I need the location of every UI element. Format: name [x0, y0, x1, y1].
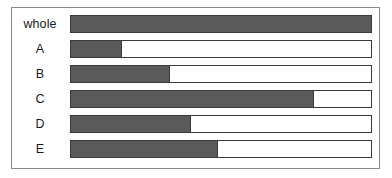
bar-fill-a	[71, 41, 122, 57]
bar-fill-b	[71, 66, 170, 82]
bar-label-c: C	[14, 89, 66, 109]
bar-row-d: D	[0, 114, 392, 134]
bar-chart-figure: whole A B C D	[0, 0, 392, 178]
bar-label-whole: whole	[14, 14, 66, 34]
bar-track-e	[70, 140, 372, 158]
bar-row-b: B	[0, 64, 392, 84]
bar-track-b	[70, 65, 372, 83]
bar-label-b: B	[14, 64, 66, 84]
bar-row-a: A	[0, 39, 392, 59]
bar-row-whole: whole	[0, 14, 392, 34]
bar-fill-c	[71, 91, 314, 107]
bar-fill-whole	[71, 16, 371, 32]
bar-rows: whole A B C D	[0, 0, 392, 178]
bar-fill-d	[71, 116, 191, 132]
bar-track-c	[70, 90, 372, 108]
bar-label-d: D	[14, 114, 66, 134]
bar-row-c: C	[0, 89, 392, 109]
bar-fill-e	[71, 141, 218, 157]
bar-track-a	[70, 40, 372, 58]
bar-row-e: E	[0, 139, 392, 159]
bar-label-e: E	[14, 139, 66, 159]
bar-track-d	[70, 115, 372, 133]
bar-label-a: A	[14, 39, 66, 59]
bar-track-whole	[70, 15, 372, 33]
